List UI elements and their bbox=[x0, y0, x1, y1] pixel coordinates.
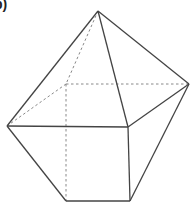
visible-edge bbox=[128, 127, 130, 201]
visible-edge bbox=[7, 126, 66, 201]
visible-edge bbox=[98, 11, 189, 84]
polyhedron-diagram bbox=[0, 0, 190, 208]
visible-edge bbox=[98, 11, 128, 127]
visible-edge bbox=[7, 11, 98, 126]
visible-edges bbox=[7, 11, 189, 201]
hidden-edge bbox=[66, 11, 98, 84]
visible-edge bbox=[128, 84, 189, 127]
hidden-edge bbox=[7, 84, 66, 126]
visible-edge bbox=[7, 126, 128, 127]
hidden-edges bbox=[7, 11, 189, 201]
visible-edge bbox=[130, 84, 189, 201]
